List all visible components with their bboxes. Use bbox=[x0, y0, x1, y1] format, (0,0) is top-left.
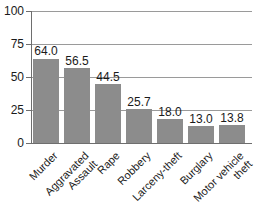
y-tick-mark-50 bbox=[26, 77, 31, 78]
bar-chart: 100 75 50 25 0 64.0 56.5 44.5 25.7 18.0 … bbox=[0, 0, 260, 208]
y-tick-mark-0 bbox=[26, 143, 31, 144]
bar-value-aggravated-assault: 56.5 bbox=[57, 55, 97, 67]
bar-rape bbox=[95, 84, 121, 143]
y-tick-label-25: 25 bbox=[0, 104, 24, 116]
bar-larceny-theft bbox=[157, 119, 183, 143]
bar-robbery bbox=[126, 109, 152, 143]
y-tick-mark-25 bbox=[26, 110, 31, 111]
bar-burglary bbox=[188, 126, 214, 143]
bar-value-motor-vehicle-theft: 13.8 bbox=[212, 112, 252, 124]
y-axis-line bbox=[31, 11, 32, 144]
y-tick-label-50: 50 bbox=[0, 71, 24, 83]
gridline-100 bbox=[31, 11, 252, 12]
y-tick-label-75: 75 bbox=[0, 38, 24, 50]
bar-value-rape: 44.5 bbox=[88, 71, 128, 83]
y-tick-mark-100 bbox=[26, 11, 31, 12]
bar-aggravated-assault bbox=[64, 68, 90, 143]
bar-murder bbox=[33, 59, 59, 144]
bar-motor-vehicle-theft bbox=[219, 125, 245, 143]
y-tick-label-100: 100 bbox=[0, 5, 24, 17]
x-axis-line bbox=[31, 143, 252, 144]
y-tick-label-0: 0 bbox=[0, 137, 24, 149]
